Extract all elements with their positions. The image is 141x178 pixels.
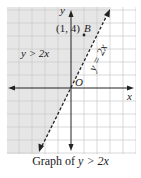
inequality-graph: y x (1, 4) B y > 2x O y = 2x Graph of y …: [0, 0, 141, 178]
caption-prefix: Graph of: [32, 154, 78, 168]
region-label: y > 2x: [20, 47, 49, 59]
point-name: B: [84, 22, 91, 34]
x-axis-label: x: [126, 90, 132, 102]
figure-caption: Graph of y > 2x: [0, 154, 141, 169]
y-axis-label: y: [59, 4, 65, 16]
point-label: (1, 4): [56, 22, 80, 35]
point-b: [83, 34, 86, 37]
origin-label: O: [75, 76, 83, 88]
caption-expression: y > 2x: [78, 154, 109, 168]
y-axis-down-arrow-icon: [69, 144, 74, 151]
